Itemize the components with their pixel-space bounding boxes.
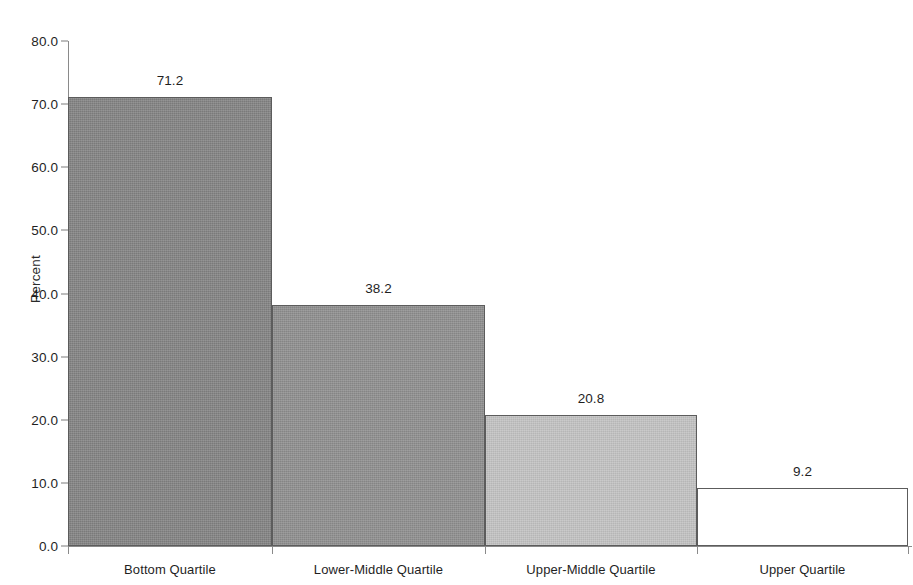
bar-texture [486,416,696,545]
x-axis-category-label: Lower-Middle Quartile [272,562,485,577]
bar-value-label: 9.2 [697,464,908,479]
bar-chart: Percent 0.010.020.030.040.050.060.070.08… [0,0,913,585]
y-tick-mark [61,230,68,231]
y-tick-label: 20.0 [6,412,58,427]
x-tick-mark [697,547,698,554]
y-tick-label: 50.0 [6,223,58,238]
bar [272,305,485,546]
x-axis-category-label: Upper Quartile [697,562,908,577]
bar-texture [273,306,484,545]
y-axis-title: Percent [28,244,50,314]
bar-value-label: 20.8 [485,391,697,406]
y-tick-mark [61,482,68,483]
x-axis-category-label: Bottom Quartile [68,562,272,577]
y-tick-label: 30.0 [6,349,58,364]
bar-value-label: 71.2 [68,73,272,88]
x-tick-mark [485,547,486,554]
bar [697,488,908,546]
x-axis-line [68,546,912,547]
bar [68,97,272,546]
y-tick-mark [61,356,68,357]
y-tick-label: 40.0 [6,286,58,301]
y-tick-mark [61,419,68,420]
x-tick-mark [68,547,69,554]
bar-value-label: 38.2 [272,281,485,296]
y-tick-label: 0.0 [6,539,58,554]
y-tick-mark [61,167,68,168]
bar-texture [69,98,271,545]
y-tick-label: 60.0 [6,160,58,175]
y-tick-label: 70.0 [6,97,58,112]
y-tick-mark [61,293,68,294]
x-axis-category-label: Upper-Middle Quartile [485,562,697,577]
y-tick-label: 10.0 [6,475,58,490]
y-tick-label: 80.0 [6,34,58,49]
y-tick-mark [61,41,68,42]
y-tick-mark [61,546,68,547]
x-tick-mark [908,547,909,554]
x-tick-mark [272,547,273,554]
bar [485,415,697,546]
y-tick-mark [61,104,68,105]
